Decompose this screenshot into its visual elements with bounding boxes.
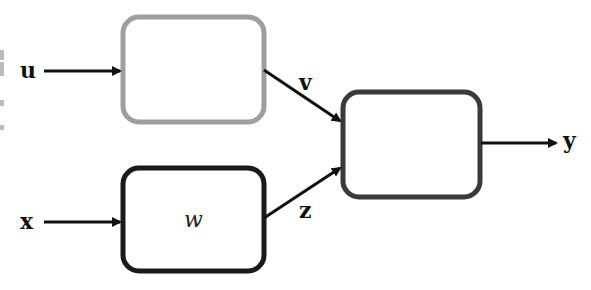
label-w: w: [184, 207, 203, 232]
output-box: [343, 92, 480, 197]
block-diagram: u x v z y w: [0, 0, 591, 290]
label-x: x: [20, 208, 34, 234]
label-z: z: [299, 197, 312, 223]
label-v: v: [298, 69, 313, 95]
top-box: [123, 17, 264, 122]
label-u: u: [20, 57, 36, 83]
label-y: y: [562, 127, 577, 153]
